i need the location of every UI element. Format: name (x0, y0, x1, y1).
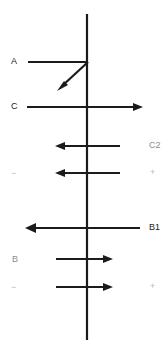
label-plus-lower: + (150, 282, 155, 291)
diagram-canvas: A C C2 − + B1 B − + (0, 0, 165, 353)
arrow-b1-left (25, 223, 140, 233)
label-a-left: A (11, 57, 17, 66)
arrow-c-right (27, 103, 143, 111)
arrow-b2-right (56, 255, 113, 263)
label-b-left: B (12, 255, 18, 264)
arrow-a-diagonal (57, 62, 88, 91)
label-c-right-subscript: 2 (156, 140, 161, 150)
label-c-right: C2 (149, 141, 161, 150)
label-c-left: C (11, 102, 18, 111)
arrow-b3-right (56, 283, 113, 291)
label-plus-upper: + (150, 168, 155, 177)
label-minus-upper: − (11, 169, 16, 178)
label-minus-lower: − (11, 283, 16, 292)
label-b-right-subscript: 1 (155, 222, 160, 232)
label-b-right: B1 (149, 223, 160, 232)
vector-diagram-svg (0, 0, 165, 353)
